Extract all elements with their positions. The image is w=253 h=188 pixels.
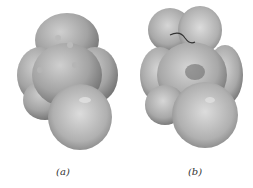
- panel-label-b: (b): [180, 166, 210, 177]
- surface-a: [17, 13, 118, 150]
- surface-b: [140, 6, 243, 148]
- panel-label-a: (a): [48, 166, 78, 177]
- molecular-surfaces: [0, 0, 253, 188]
